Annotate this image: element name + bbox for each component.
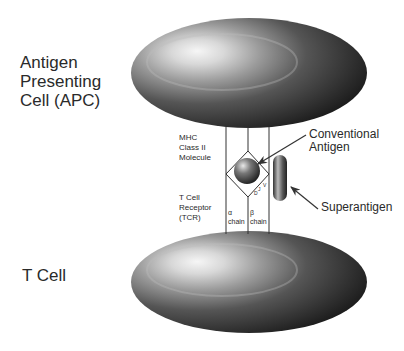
beta-j-segment: J (258, 187, 261, 192)
apc-label-line3: Cell (APC) (20, 91, 101, 110)
conventional-antigen-sphere (234, 158, 260, 184)
alpha-symbol: α (228, 208, 245, 217)
apc-label-line2: Presenting (20, 72, 101, 91)
tcr-label-line3: (TCR) (179, 213, 211, 223)
apc-label: Antigen Presenting Cell (APC) (20, 53, 101, 110)
conventional-antigen-label: Conventional Antigen (309, 128, 379, 154)
mhc-label-line3: Molecule (179, 153, 211, 163)
beta-symbol: β (250, 208, 267, 217)
superantigen-arrow (291, 187, 318, 209)
mhc-label-line2: Class II (179, 143, 211, 153)
beta-d-segment: D (254, 191, 258, 196)
tcr-label-line2: Receptor (179, 203, 211, 213)
apc-cell (131, 18, 367, 128)
mhc-label: MHC Class II Molecule (179, 133, 211, 163)
tcr-label-line1: T Cell (179, 193, 211, 203)
t-cell-label: T Cell (22, 266, 66, 285)
beta-chain-label: β chain (250, 208, 267, 226)
superantigen-label: Superantigen (321, 201, 392, 214)
conventional-antigen-line2: Antigen (309, 141, 379, 154)
alpha-chain-text: chain (228, 217, 245, 226)
mhc-label-line1: MHC (179, 133, 211, 143)
alpha-chain-label: α chain (228, 208, 245, 226)
t-cell (131, 231, 367, 333)
superantigen-shape (273, 155, 287, 201)
tcr-label: T Cell Receptor (TCR) (179, 193, 211, 223)
beta-v-segment: V (263, 183, 266, 188)
apc-label-line1: Antigen (20, 53, 101, 72)
beta-chain-text: chain (250, 217, 267, 226)
